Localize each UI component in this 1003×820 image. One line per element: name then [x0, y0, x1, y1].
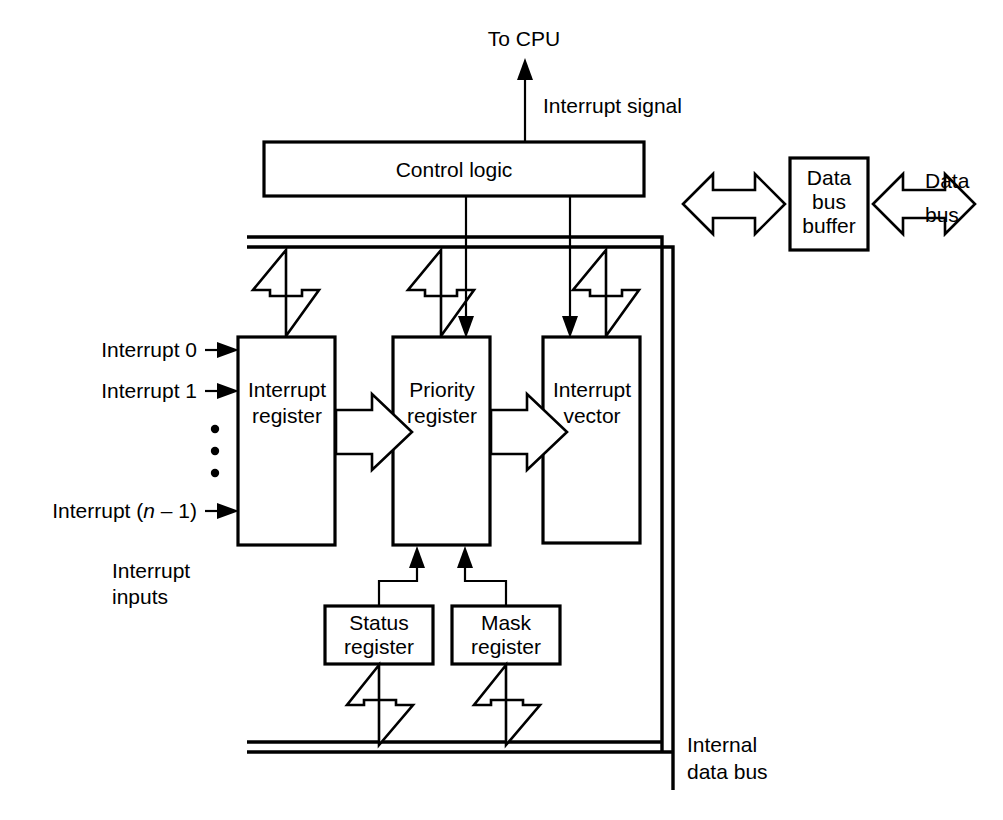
priority-register-label-line2: register	[407, 404, 477, 427]
data-bus-buffer-label-line3: buffer	[802, 214, 855, 237]
bidirectional-arrow-icon	[573, 250, 639, 336]
vertical-bidirectional-arrow-1	[253, 250, 319, 336]
control-logic-label: Control logic	[396, 158, 513, 181]
diagram-canvas: To CPU Interrupt signal Control logic In…	[0, 0, 1003, 820]
interrupt-n-italic: n	[143, 499, 155, 522]
to-cpu-label: To CPU	[488, 27, 560, 50]
control-logic-to-priority-arrow	[458, 196, 474, 338]
ellipsis-dot-1	[211, 425, 219, 433]
data-bus-buffer-label-line1: Data	[807, 166, 852, 189]
interrupt-inputs-label-line2: inputs	[112, 585, 168, 608]
bidirectional-arrow-icon	[683, 174, 785, 234]
to-cpu-signal-group: To CPU Interrupt signal	[488, 27, 682, 142]
interrupt-vector-label-line2: vector	[563, 404, 620, 427]
data-bus-label-line2: bus	[925, 203, 959, 226]
interrupt-n-arrowhead	[217, 503, 239, 519]
priority-register-box	[393, 337, 490, 545]
bus-to-buffer-arrow	[683, 174, 785, 234]
interrupt-signal-label: Interrupt signal	[543, 94, 682, 117]
mask-register-label-line2: register	[471, 635, 541, 658]
ellipsis-dot-2	[211, 447, 219, 455]
buffer-to-data-bus-arrow: Data bus	[873, 169, 975, 234]
status-register-to-bus-arrow	[347, 665, 413, 745]
mask-register-label-line1: Mask	[481, 611, 532, 634]
mask-register-block: Mask register	[452, 606, 560, 664]
interrupt-1-label: Interrupt 1	[101, 379, 197, 402]
status-to-priority-line	[379, 566, 417, 606]
status-register-block: Status register	[325, 606, 433, 664]
interrupt-n-label: Interrupt (n – 1)	[52, 499, 197, 522]
mask-to-priority-arrowhead	[457, 546, 473, 568]
control-to-priority-arrowhead	[458, 316, 474, 338]
status-register-label-line1: Status	[349, 611, 409, 634]
interrupt-signal-arrowhead	[517, 58, 533, 80]
interrupt-inputs-label-line1: Interrupt	[112, 559, 190, 582]
status-to-priority-arrow	[379, 546, 425, 606]
interrupt-n-prefix: Interrupt (	[52, 499, 143, 522]
bus-to-interrupt-vector-arrow	[573, 250, 639, 336]
interrupt-input-1: Interrupt 1	[101, 379, 239, 402]
bus-to-interrupt-register-arrow	[253, 250, 319, 336]
priority-register-block: Priority register	[393, 337, 490, 545]
control-to-vector-arrowhead	[562, 316, 578, 338]
interrupt-register-block: Interrupt register	[238, 337, 335, 545]
interrupt-register-box	[238, 337, 335, 545]
interrupt-0-label: Interrupt 0	[101, 338, 197, 361]
data-bus-label-line1: Data	[925, 169, 970, 192]
bidirectional-arrow-icon	[474, 665, 540, 745]
interrupt-inputs-ellipsis-icon	[211, 425, 219, 477]
internal-data-bus-label-line2: data bus	[687, 760, 768, 783]
interrupt-1-arrowhead	[217, 383, 239, 399]
interrupt-controller-diagram: To CPU Interrupt signal Control logic In…	[0, 0, 1003, 820]
mask-to-priority-arrow	[457, 546, 506, 606]
interrupt-register-label-line1: Interrupt	[248, 378, 326, 401]
ellipsis-dot-3	[211, 469, 219, 477]
interrupt-n-suffix: – 1)	[155, 499, 197, 522]
interrupt-input-n: Interrupt (n – 1)	[52, 499, 239, 522]
interrupt-register-label-line2: register	[252, 404, 322, 427]
priority-register-label-line1: Priority	[409, 378, 475, 401]
status-register-label-line2: register	[344, 635, 414, 658]
control-logic-block: Control logic	[264, 142, 644, 196]
mask-register-to-bus-arrow	[474, 665, 540, 745]
interrupt-0-arrowhead	[217, 342, 239, 358]
data-bus-buffer-block: Data bus buffer	[790, 158, 868, 250]
mask-to-priority-line	[465, 566, 506, 606]
bidirectional-arrow-icon	[347, 665, 413, 745]
interrupt-vector-label-line1: Interrupt	[553, 378, 631, 401]
status-to-priority-arrowhead	[409, 546, 425, 568]
bidirectional-arrow-icon	[253, 250, 319, 336]
interrupt-input-0: Interrupt 0	[101, 338, 239, 361]
data-bus-buffer-label-line2: bus	[812, 190, 846, 213]
control-logic-to-vector-arrow	[562, 196, 578, 338]
internal-data-bus-label-line1: Internal	[687, 733, 757, 756]
